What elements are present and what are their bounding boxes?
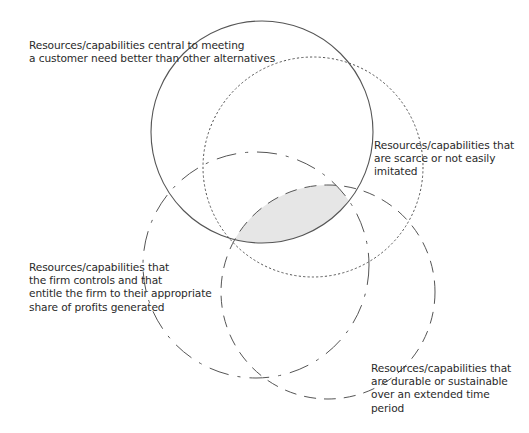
- label-customer-need: Resources/capabilities central to meetin…: [29, 39, 275, 65]
- label-firm-controls: Resources/capabilities that the firm con…: [29, 261, 212, 314]
- label-scarce: Resources/capabilities that are scarce o…: [374, 139, 514, 179]
- label-durable: Resources/capabilities that are durable …: [371, 362, 511, 415]
